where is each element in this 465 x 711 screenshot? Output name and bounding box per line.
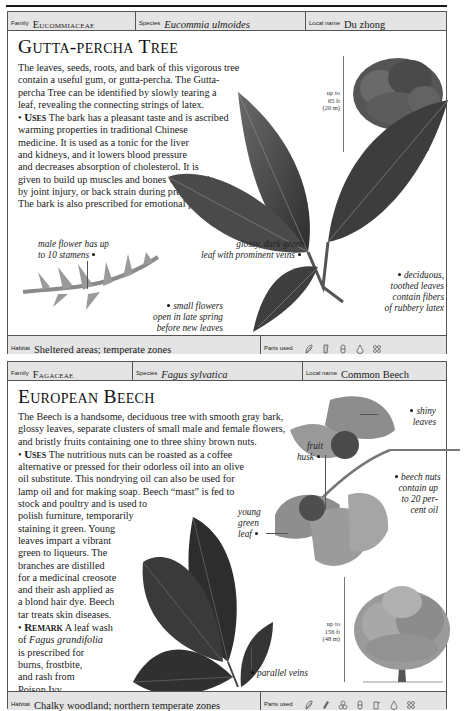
caption-line: beech nuts [401,472,441,482]
caption-shiny-leaves: shiny leaves [380,406,436,428]
leader-dot [317,455,320,458]
height-bar [344,577,345,682]
species-cell: SpeciesEucommia ulmoides [136,12,306,30]
root-icon [406,700,416,710]
height-line: 156 ft [304,628,340,636]
local-name-label: Local name [306,370,337,376]
caption-fruit-husk: fruit husk [295,441,323,463]
body-text: of [18,634,29,645]
family-value: Fagaceae [33,369,74,380]
body-line: lamp oil and for making soap. Beech “mas… [18,486,285,498]
caption-line: contain up [392,483,438,494]
uses-line: • Uses The nutritious nuts can be roaste… [18,448,285,461]
leader-dot [398,273,401,276]
entry-header: FamilyEucommiaceae SpeciesEucommia ulmoi… [8,12,446,31]
caption-line: leaves [380,417,436,428]
caption-line: open in late spring [153,312,223,323]
local-name-cell: Local nameDu zhong [306,12,446,30]
body-line: glossy leaves, separate clusters of smal… [18,423,285,435]
caption-line: cent oil [392,505,438,516]
caption-parallel-veins: parallel veins [248,668,308,679]
body-line: alternative or pressed for their odorles… [18,461,285,473]
local-name-value: Common Beech [341,369,409,380]
body-line: contain a useful gum, or gutta-percha. T… [18,74,239,86]
body-line: oil substitute. This nondrying oil can a… [18,473,285,485]
leaf-icon [304,344,314,354]
caption-line: husk [297,452,314,462]
remark-keyword: Remark [24,621,63,633]
uses-keyword: Uses [24,111,46,123]
species-label: Species [136,370,157,376]
gum-drop-icon [355,344,365,354]
height-line: up to [304,620,340,628]
local-name-label: Local name [309,20,340,26]
page-top-rule [6,5,447,7]
oil-drop-icon [389,700,399,710]
habitat-cell: HabitatSheltered areas; temperate zones [8,336,261,354]
entry-title: Gutta-percha Tree [18,36,178,58]
root-icon [372,344,382,354]
local-name-cell: Local nameCommon Beech [303,362,446,380]
habitat-cell: HabitatChalky woodland; northern tempera… [8,692,261,710]
family-cell: FamilyEucommiaceae [8,12,136,30]
entry-footer: HabitatSheltered areas; temperate zones … [8,335,446,354]
habitat-value: Chalky woodland; northern temperate zone… [34,700,220,711]
parts-used-label: Parts used [264,701,293,707]
caption-line: before new leaves [153,323,223,334]
habitat-value: Sheltered areas; temperate zones [34,344,171,355]
caption-line: to 20 per- [392,494,438,505]
leader-line [251,647,252,669]
leader-dot [298,253,301,256]
caption-line: deciduous, [404,270,444,280]
bark-icon [321,700,331,710]
family-value: Eucommiaceae [33,19,95,30]
beech-tree-illustration [348,582,453,687]
remark-species: Fagus grandifolia [29,634,103,645]
bark-icon [321,344,331,354]
body-line: and bristly fruits containing one to thr… [18,436,285,448]
caption-line: to 10 stamens [38,250,89,260]
habitat-label: Habitat [11,345,30,351]
uses-keyword: Uses [24,448,46,460]
leader-dot [395,475,398,478]
caption-line: glossy, dark green [201,239,304,250]
flower-icon [338,700,348,710]
caption-line: contain fibers [376,292,444,303]
entry-gutta-percha: FamilyEucommiaceae SpeciesEucommia ulmoi… [7,11,447,354]
leader-dot [167,304,170,307]
family-cell: FamilyFagaceae [8,362,133,380]
body-line: The Beech is a handsome, deciduous tree … [18,411,285,423]
caption-glossy-leaf: glossy, dark green leaf with prominent v… [201,239,304,261]
leader-line [360,414,378,415]
entry-title: European Beech [18,386,155,408]
caption-line: leaf with prominent veins [201,250,295,260]
leader-dot [92,253,95,256]
species-label: Species [139,20,160,26]
species-value: Fagus sylvatica [161,369,227,380]
body-text: The nutritious nuts can be roasted as a … [46,449,232,460]
caption-line: male flower has up [38,239,109,250]
parts-used-label: Parts used [264,345,293,351]
family-label: Family [11,20,29,26]
caption-male-flower: male flower has up to 10 stamens [38,239,109,261]
caption-line: small flowers [173,301,223,311]
family-label: Family [11,370,29,376]
body-text: A leaf wash [63,622,113,633]
entry-header: FamilyFagaceae SpeciesFagus sylvatica Lo… [8,362,446,381]
leader-dot [410,409,413,412]
nut-icon [372,700,382,710]
caption-deciduous: deciduous, toothed leaves contain fibers… [376,270,444,314]
caption-line: toothed leaves [376,281,444,292]
entry-european-beech: FamilyFagaceae SpeciesFagus sylvatica Lo… [7,361,447,709]
leader-line [87,261,88,289]
caption-line: parallel veins [257,668,308,678]
caption-line: of rubbery latex [376,303,444,314]
leaf-icon [304,700,314,710]
height-label: up to 156 ft (48 m) [304,620,340,643]
seed-icon [355,700,365,710]
caption-small-flowers: small flowers open in late spring before… [153,301,223,334]
species-cell: SpeciesFagus sylvatica [133,362,303,380]
entry-footer: HabitatChalky woodland; northern tempera… [8,691,446,710]
parts-used-cell: Parts used [261,692,446,710]
caption-line: shiny [416,406,436,416]
